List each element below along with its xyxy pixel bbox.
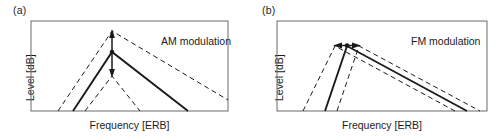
panel-b-legend-label: FM modulation: [411, 35, 481, 47]
panel-a-legend-label: AM modulation: [161, 35, 231, 47]
panel-b: (b) Level [dB] Frequency [ERB] FM modula…: [250, 0, 500, 139]
panel-b-carrier-curve: [325, 46, 467, 111]
panel-a-plot: AM modulation: [0, 0, 250, 139]
panel-b-lower-frequency-curve: [303, 46, 455, 111]
panel-b-frequency-excursion-arrow: [333, 43, 361, 49]
panel-a: (a) Level [dB] Frequency [ERB] AM modula…: [0, 0, 250, 139]
figure-am-fm-excitation-patterns: (a) Level [dB] Frequency [ERB] AM modula…: [0, 0, 500, 139]
panel-b-plot: FM modulation: [250, 0, 500, 139]
panel-a-carrier-curve: [73, 52, 188, 111]
